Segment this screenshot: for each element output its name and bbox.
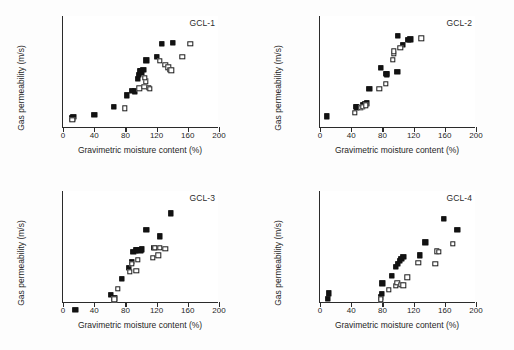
chart-panel-gcl-3: Gas permeability (m/s) Gravimetric moist… <box>0 175 257 350</box>
data-point-filled-square <box>139 247 144 252</box>
data-point-open-square <box>352 110 357 115</box>
data-point-open-square <box>363 103 368 108</box>
x-axis-tick-label: 120 <box>407 131 420 140</box>
x-axis-tick-label: 120 <box>150 131 163 140</box>
plot-frame: GCL-3 04080120160200 <box>62 191 218 303</box>
x-axis-title: Gravimetric moisture content (%) <box>319 320 475 330</box>
data-point-filled-square <box>111 104 116 109</box>
data-point-open-square <box>436 249 441 254</box>
x-axis-tick-label: 160 <box>181 306 194 315</box>
data-point-open-square <box>390 57 395 62</box>
data-point-filled-square <box>455 227 460 232</box>
y-axis-title: Gas permeability (m/s) <box>273 188 283 338</box>
data-point-open-square <box>419 36 424 41</box>
data-point-filled-square <box>384 72 389 77</box>
x-axis-tick-label: 120 <box>407 306 420 315</box>
data-point-open-square <box>115 286 120 291</box>
x-axis-tick-label: 0 <box>318 306 322 315</box>
data-point-open-square <box>122 106 127 111</box>
data-point-open-square <box>142 75 147 80</box>
data-point-open-square <box>187 41 192 46</box>
data-point-filled-square <box>441 216 446 221</box>
x-axis-tick-label: 80 <box>378 306 387 315</box>
data-point-open-square <box>450 241 455 246</box>
data-point-open-square <box>386 287 391 292</box>
plot-area: 04080120160200 <box>320 16 475 127</box>
y-axis-title: Gas permeability (m/s) <box>16 13 26 163</box>
data-point-filled-square <box>408 36 413 41</box>
x-axis-tick-label: 160 <box>438 306 451 315</box>
data-point-filled-square <box>144 58 149 63</box>
data-point-open-square <box>401 283 406 288</box>
x-axis-tick-label: 40 <box>347 306 356 315</box>
y-axis-title: Gas permeability (m/s) <box>273 13 283 163</box>
data-point-open-square <box>169 68 174 73</box>
data-point-filled-square <box>157 234 162 239</box>
plot-frame: GCL-4 04080120160200 <box>319 191 475 303</box>
data-point-open-square <box>433 261 438 266</box>
x-axis-tick-label: 40 <box>90 131 99 140</box>
data-point-filled-square <box>380 281 385 286</box>
x-axis-tick-label: 40 <box>347 131 356 140</box>
data-point-open-square <box>162 246 167 251</box>
data-point-open-square <box>129 261 134 266</box>
x-axis-tick-label: 0 <box>318 131 322 140</box>
x-axis-tick-label: 40 <box>90 306 99 315</box>
data-point-filled-square <box>170 40 175 45</box>
plot-area: 04080120160200 <box>320 191 475 302</box>
data-point-filled-square <box>395 69 400 74</box>
x-axis-tick-label: 200 <box>212 306 225 315</box>
data-point-filled-square <box>168 211 173 216</box>
data-point-filled-square <box>144 227 149 232</box>
x-axis-tick-label: 160 <box>438 131 451 140</box>
x-axis-tick-label: 0 <box>61 306 65 315</box>
x-axis-tick-label: 0 <box>61 131 65 140</box>
x-axis-tick-label: 200 <box>469 306 482 315</box>
y-axis-title: Gas permeability (m/s) <box>16 188 26 338</box>
plot-area: 04080120160200 <box>63 191 218 302</box>
data-point-filled-square <box>325 296 330 301</box>
data-point-filled-square <box>401 254 406 259</box>
figure-canvas: Gas permeability (m/s) Gravimetric moist… <box>0 0 514 350</box>
data-point-open-square <box>378 297 383 302</box>
data-point-open-square <box>155 253 160 258</box>
data-point-filled-square <box>378 65 383 70</box>
chart-panel-gcl-1: Gas permeability (m/s) Gravimetric moist… <box>0 0 257 175</box>
data-point-filled-square <box>366 86 371 91</box>
data-point-open-square <box>134 268 139 273</box>
data-point-filled-square <box>395 33 400 38</box>
plot-frame: GCL-2 04080120160200 <box>319 16 475 128</box>
x-axis-title: Gravimetric moisture content (%) <box>62 145 218 155</box>
data-point-open-square <box>70 117 75 122</box>
x-axis-tick-label: 80 <box>121 306 130 315</box>
data-point-open-square <box>405 275 410 280</box>
x-axis-tick-label: 160 <box>181 131 194 140</box>
data-point-filled-square <box>389 273 394 278</box>
data-point-filled-square <box>119 276 124 281</box>
data-point-open-square <box>383 81 388 86</box>
x-axis-tick-label: 200 <box>212 131 225 140</box>
data-point-filled-square <box>423 239 428 244</box>
data-point-filled-square <box>379 291 384 296</box>
data-point-open-square <box>112 297 117 302</box>
data-point-filled-square <box>417 253 422 258</box>
data-point-open-square <box>391 49 396 54</box>
chart-panel-gcl-4: Gas permeability (m/s) Gravimetric moist… <box>257 175 514 350</box>
data-point-filled-square <box>141 67 146 72</box>
data-point-open-square <box>180 54 185 59</box>
chart-panel-gcl-2: Gas permeability (m/s) Gravimetric moist… <box>257 0 514 175</box>
data-point-open-square <box>135 257 140 262</box>
data-point-open-square <box>127 269 132 274</box>
x-axis-tick-label: 120 <box>150 306 163 315</box>
data-point-filled-square <box>324 114 329 119</box>
data-point-filled-square <box>159 41 164 46</box>
x-axis-tick-label: 200 <box>469 131 482 140</box>
data-point-filled-square <box>73 307 78 312</box>
x-axis-title: Gravimetric moisture content (%) <box>319 145 475 155</box>
x-axis-tick-label: 80 <box>121 131 130 140</box>
data-point-open-square <box>147 86 152 91</box>
plot-area: 04080120160200 <box>63 16 218 127</box>
plot-frame: GCL-1 04080120160200 <box>62 16 218 128</box>
x-axis-tick-label: 80 <box>378 131 387 140</box>
data-point-filled-square <box>326 291 331 296</box>
